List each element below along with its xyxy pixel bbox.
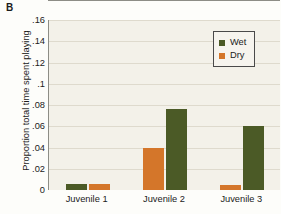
x-tick-label: Juvenile 3 [203, 193, 280, 205]
gridline [49, 84, 280, 85]
x-axis-tick-labels: Juvenile 1Juvenile 2Juvenile 3 [48, 193, 280, 211]
bar-wet-2 [166, 109, 187, 190]
gridline [49, 105, 280, 106]
legend-label: Dry [230, 50, 244, 61]
gridline [49, 20, 280, 21]
legend-swatch-icon [219, 40, 225, 46]
y-tick-label: .12 [14, 58, 45, 68]
y-tick-label: .1 [14, 79, 45, 89]
bar-wet-1 [66, 184, 87, 190]
x-axis-line [48, 0, 280, 1]
x-tick-label: Juvenile 1 [48, 193, 125, 205]
chart-legend: WetDry [213, 31, 255, 67]
bar-dry-2 [143, 148, 164, 191]
panel-letter-label: B [6, 2, 13, 14]
y-tick-label: .08 [14, 100, 45, 110]
y-tick-label: .06 [14, 121, 45, 131]
legend-item-wet: Wet [219, 36, 246, 49]
y-tick-label: .16 [14, 15, 45, 25]
legend-label: Wet [230, 37, 246, 48]
y-tick-label: .02 [14, 164, 45, 174]
bar-dry-3 [220, 185, 241, 190]
figure-panel-b: B Proportion total time spent playing 0.… [0, 0, 281, 214]
x-tick-label: Juvenile 2 [125, 193, 202, 205]
bar-wet-3 [243, 126, 264, 190]
y-axis-tick-labels: 0.02.04.06.08.1.12.14.16 [14, 14, 45, 190]
y-tick-label: 0 [14, 185, 45, 195]
y-tick-label: .04 [14, 143, 45, 153]
y-tick-label: .14 [14, 36, 45, 46]
legend-swatch-icon [219, 53, 225, 59]
legend-item-dry: Dry [219, 49, 246, 62]
bar-dry-1 [89, 184, 110, 190]
